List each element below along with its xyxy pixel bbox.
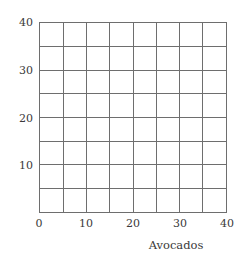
x-axis-title: Avocados (149, 240, 204, 252)
y-tick-label-30: 30 (3, 65, 33, 76)
grid-lines (40, 23, 226, 212)
y-tick-label-10: 10 (3, 160, 33, 171)
x-tick-label-0: 0 (19, 218, 59, 229)
y-tick-label-40: 40 (3, 17, 33, 28)
x-tick-label-10: 10 (66, 218, 106, 229)
coordinate-grid-chart: 40 30 20 10 0 10 20 30 40 Avocados (0, 0, 244, 268)
x-tick-label-40: 40 (207, 218, 244, 229)
y-tick-label-20: 20 (3, 113, 33, 124)
x-tick-label-20: 20 (113, 218, 153, 229)
plot-area (39, 22, 227, 213)
x-tick-label-30: 30 (160, 218, 200, 229)
